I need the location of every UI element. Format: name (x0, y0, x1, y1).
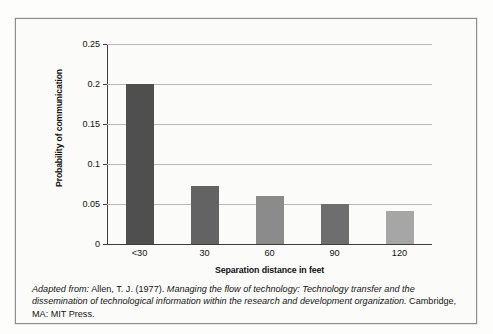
caption-lead-label: Adapted from: (32, 284, 89, 294)
bar-chart: Probability of communication 00.050.10.1… (16, 19, 478, 269)
x-tick-label: 120 (392, 248, 407, 258)
y-tick-label: 0.2 (87, 79, 100, 89)
y-tick-label: 0.25 (82, 39, 100, 49)
x-tick-label: 60 (264, 248, 274, 258)
bar-90[interactable] (321, 204, 349, 244)
bar-lt30[interactable] (126, 84, 154, 244)
gridline (107, 244, 432, 245)
caption-authors: Allen, T. J. (1977). (89, 284, 167, 294)
x-tick-label: 90 (329, 248, 339, 258)
x-tick-label: <30 (132, 248, 148, 258)
y-tick-label: 0.05 (82, 199, 100, 209)
plot-area: 00.050.10.150.20.25 <30306090120 (107, 44, 432, 244)
bar-series (107, 44, 432, 244)
x-tick-label: 30 (199, 248, 209, 258)
y-tick-label: 0.15 (82, 119, 100, 129)
figure-caption: Adapted from: Allen, T. J. (1977). Manag… (32, 283, 466, 320)
bar-120[interactable] (386, 211, 414, 244)
y-tick-label: 0 (95, 239, 100, 249)
bar-60[interactable] (256, 196, 284, 244)
figure-border-box: Probability of communication 00.050.10.1… (15, 18, 477, 324)
figure-page: Probability of communication 00.050.10.1… (0, 0, 493, 334)
y-tick-label: 0.1 (87, 159, 100, 169)
y-axis-title: Probability of communication (54, 33, 64, 223)
x-axis-title: Separation distance in feet (107, 265, 432, 275)
bar-30[interactable] (191, 186, 219, 244)
y-tick-mark (103, 244, 107, 245)
